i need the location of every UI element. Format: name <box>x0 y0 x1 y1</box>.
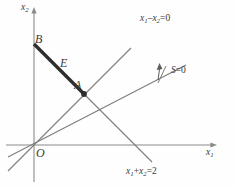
origin-label: O <box>36 147 45 159</box>
point-a-label: A <box>74 79 81 91</box>
line-label-s-equals-zero: S=0 <box>171 66 186 76</box>
line-label-x1-minus-x2: x1–x2=0 <box>140 14 170 24</box>
x-axis-label: x1 <box>206 148 214 158</box>
line-label-x1-plus-x2: x1+x2=2 <box>126 167 157 177</box>
line-s-equals-zero <box>8 63 186 157</box>
point-b-label: B <box>35 33 42 45</box>
point-a-marker <box>81 91 87 97</box>
linear-programming-figure: x2 x1 O B E A x1–x2=0 S=0 x1+x2=2 <box>0 0 235 188</box>
segment-e-label: E <box>60 57 67 69</box>
y-axis-label: x2 <box>21 3 29 13</box>
line-x1-minus-x2 <box>8 48 131 171</box>
